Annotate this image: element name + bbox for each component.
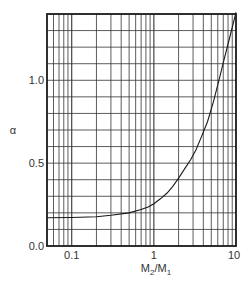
x-axis-label: M2/M1 bbox=[141, 262, 172, 277]
y-tick-label: 1.0 bbox=[29, 74, 44, 86]
x-tick-label: 10 bbox=[228, 249, 240, 261]
y-tick-labels: 0.00.51.0 bbox=[29, 74, 44, 252]
x-tick-labels: 0.1110 bbox=[64, 249, 240, 261]
y-tick-label: 0.5 bbox=[29, 157, 44, 169]
alpha-vs-mass-ratio-chart: 0.1110 0.00.51.0 α M2/M1 bbox=[0, 0, 248, 287]
y-axis-label: α bbox=[10, 124, 17, 136]
grid-lines bbox=[47, 14, 236, 246]
x-tick-label: 1 bbox=[151, 249, 157, 261]
x-tick-label: 0.1 bbox=[64, 249, 79, 261]
y-tick-label: 0.0 bbox=[29, 240, 44, 252]
